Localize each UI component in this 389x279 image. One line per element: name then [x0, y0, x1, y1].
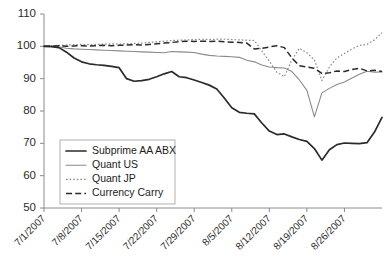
x-axis-tick-label: 7/15/2007 [83, 212, 123, 252]
series-line-quant-us [44, 46, 382, 116]
x-axis-tick-label: 8/19/2007 [271, 212, 311, 252]
y-axis-tick-label: 60 [23, 169, 36, 181]
y-axis-tick-label: 100 [17, 39, 36, 51]
x-axis-tick-label: 8/5/2007 [200, 212, 236, 248]
y-axis-tick-label: 80 [23, 104, 36, 116]
x-axis: 7/1/20077/8/20077/15/20077/22/20077/29/2… [12, 208, 382, 252]
x-axis-tick-label: 8/26/2007 [309, 212, 349, 252]
x-axis-tick-label: 8/12/2007 [234, 212, 274, 252]
series-line-currency-carry [44, 41, 382, 73]
y-axis-tick-label: 50 [23, 201, 36, 213]
x-axis-ticks: 7/1/20077/8/20077/15/20077/22/20077/29/2… [12, 208, 348, 252]
series-line-quant-jp [44, 33, 382, 81]
x-axis-tick-label: 7/8/2007 [50, 212, 86, 248]
x-axis-tick-label: 7/1/2007 [12, 212, 48, 248]
y-axis-tick-label: 70 [23, 136, 36, 148]
legend-item-label: Quant US [92, 158, 138, 170]
chart-legend: Subprime AA ABXQuant USQuant JPCurrency … [60, 140, 176, 204]
y-axis-ticks: 1101009080706050 [17, 7, 44, 213]
x-axis-tick-label: 7/22/2007 [121, 212, 161, 252]
y-axis: 1101009080706050 [17, 7, 44, 213]
legend-item-label: Subprime AA ABX [92, 144, 176, 156]
x-axis-tick-label: 7/29/2007 [158, 212, 198, 252]
legend-item-label: Currency Carry [92, 186, 164, 198]
y-axis-tick-label: 90 [23, 72, 36, 84]
chart-canvas: 1101009080706050 7/1/20077/8/20077/15/20… [0, 0, 389, 279]
y-axis-tick-label: 110 [18, 7, 36, 19]
line-chart: 1101009080706050 7/1/20077/8/20077/15/20… [0, 0, 389, 279]
legend-item-label: Quant JP [92, 172, 136, 184]
